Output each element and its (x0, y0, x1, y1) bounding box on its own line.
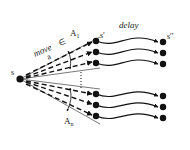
action-delay-diagram: s move a ∈ A1 An s′ delay s′′ (0, 0, 190, 150)
element-of-label: ∈ (57, 37, 67, 48)
final-state-label: s′′ (167, 32, 174, 41)
set-an-label: An (64, 116, 74, 127)
final-state-nodes (160, 39, 166, 121)
source-state-node (16, 75, 23, 82)
diagram-canvas: s move a ∈ A1 An s′ delay s′′ (0, 0, 190, 150)
delay-label: delay (119, 20, 139, 30)
fan-lower-boundary (20, 79, 100, 124)
lower-action-arrows (26, 81, 92, 115)
mid-state-nodes (93, 38, 99, 119)
set-a1-label: A1 (70, 28, 80, 39)
source-label: s (11, 68, 14, 77)
move-var-label: a (45, 52, 52, 62)
move-label-group: move a ∈ (32, 36, 70, 66)
delay-arrows (96, 38, 158, 118)
mid-state-label: s′ (100, 31, 105, 40)
